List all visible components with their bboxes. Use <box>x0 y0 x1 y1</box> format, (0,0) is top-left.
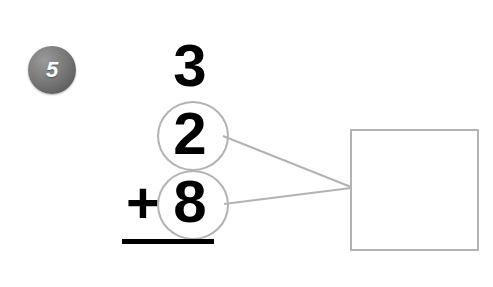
problem-number-badge: 5 <box>28 46 76 94</box>
connector-line-lower <box>224 188 351 204</box>
connector-line-upper <box>223 136 351 187</box>
answer-box[interactable] <box>350 129 479 251</box>
addend-bottom: 8 <box>162 172 218 232</box>
problem-number-label: 5 <box>46 59 58 81</box>
addend-top: 3 <box>162 36 218 96</box>
addend-middle: 2 <box>162 104 218 164</box>
sum-rule <box>122 239 214 244</box>
worksheet-canvas: 5 3 2 + 8 <box>0 0 493 287</box>
